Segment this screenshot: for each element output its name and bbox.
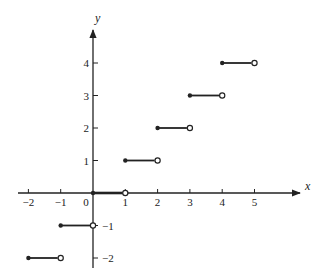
open-endpoint-circle [187, 125, 192, 130]
open-endpoint-circle [90, 223, 95, 228]
step-segment [188, 93, 225, 98]
x-tick-label: 4 [219, 196, 225, 208]
y-tick-label: 1 [84, 155, 90, 167]
step-segment [26, 255, 63, 260]
closed-endpoint-dot [188, 93, 192, 97]
open-endpoint-circle [123, 190, 128, 195]
x-tick-label: −1 [55, 196, 67, 208]
open-endpoint-circle [58, 255, 63, 260]
closed-endpoint-dot [123, 158, 127, 162]
x-tick-label: 2 [155, 196, 161, 208]
axes [18, 30, 300, 268]
x-tick-label: −2 [23, 196, 35, 208]
x-tick-label: 0 [83, 196, 89, 208]
closed-endpoint-dot [220, 61, 224, 65]
x-tick-label: 5 [252, 196, 258, 208]
y-axis-label: y [94, 11, 101, 25]
step-segment [91, 190, 128, 195]
closed-endpoint-dot [91, 191, 95, 195]
closed-endpoint-dot [59, 223, 63, 227]
x-axis-label: x [304, 179, 311, 193]
open-endpoint-circle [252, 60, 257, 65]
open-endpoint-circle [220, 93, 225, 98]
data-segments [26, 60, 257, 260]
y-tick-label: 2 [84, 122, 90, 134]
y-tick-label: 3 [84, 90, 90, 102]
step-segment [220, 60, 257, 65]
closed-endpoint-dot [155, 126, 159, 130]
step-segment [59, 223, 96, 228]
y-tick-label: 4 [84, 57, 90, 69]
step-segment [123, 158, 160, 163]
x-tick-label: 3 [187, 196, 193, 208]
open-endpoint-circle [155, 158, 160, 163]
closed-endpoint-dot [26, 256, 30, 260]
y-tick-label: −2 [102, 252, 114, 264]
y-tick-label: −1 [102, 220, 114, 232]
step-function-chart: −2−10123454321−1−2 x y [0, 0, 329, 280]
step-segment [155, 125, 192, 130]
x-tick-label: 1 [123, 196, 129, 208]
